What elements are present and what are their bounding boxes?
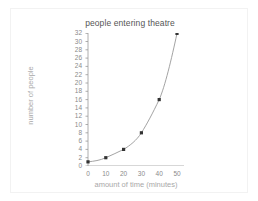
y-tick-0: 0 — [68, 163, 82, 169]
x-tick-10: 10 — [98, 170, 114, 177]
x-axis-title: amount of time (minutes) — [51, 180, 221, 189]
y-tick-16: 16 — [68, 97, 82, 103]
data-point-50-32 — [175, 33, 178, 35]
y-tick-32: 32 — [68, 30, 82, 36]
y-tick-26: 26 — [68, 55, 82, 61]
x-tick-50: 50 — [169, 170, 185, 177]
y-tick-4: 4 — [68, 146, 82, 152]
y-tick-2: 2 — [68, 155, 82, 161]
y-tick-24: 24 — [68, 63, 82, 69]
data-point-0-1 — [86, 160, 89, 163]
plot-area — [84, 33, 184, 166]
y-axis-tick-labels: 0 2 4 6 8 10 12 14 16 18 20 22 24 26 28 … — [66, 33, 82, 166]
y-tick-14: 14 — [68, 105, 82, 111]
y-tick-8: 8 — [68, 130, 82, 136]
data-point-30-8 — [140, 131, 143, 134]
x-axis-tick-labels: 0 10 20 30 40 50 — [84, 170, 184, 180]
x-tick-40: 40 — [151, 170, 167, 177]
chart-plot-svg — [84, 33, 184, 166]
data-point-20-4 — [122, 148, 125, 151]
x-tick-30: 30 — [133, 170, 149, 177]
y-tick-12: 12 — [68, 113, 82, 119]
chart-frame: people entering theatre number of people… — [10, 8, 248, 193]
x-tick-0: 0 — [80, 170, 96, 177]
y-tick-18: 18 — [68, 88, 82, 94]
data-line — [88, 33, 177, 161]
y-tick-22: 22 — [68, 72, 82, 78]
data-point-40-16 — [158, 98, 161, 101]
data-point-markers — [86, 33, 178, 163]
y-tick-20: 20 — [68, 80, 82, 86]
axis-lines — [88, 33, 184, 166]
y-tick-30: 30 — [68, 39, 82, 45]
y-tick-28: 28 — [68, 47, 82, 53]
y-axis-title: number of people — [26, 51, 35, 141]
chart-title: people entering theatre — [11, 18, 249, 28]
y-tick-10: 10 — [68, 122, 82, 128]
chart-page: people entering theatre number of people… — [0, 0, 258, 201]
x-tick-20: 20 — [116, 170, 132, 177]
data-point-10-2 — [104, 156, 107, 159]
y-tick-6: 6 — [68, 138, 82, 144]
